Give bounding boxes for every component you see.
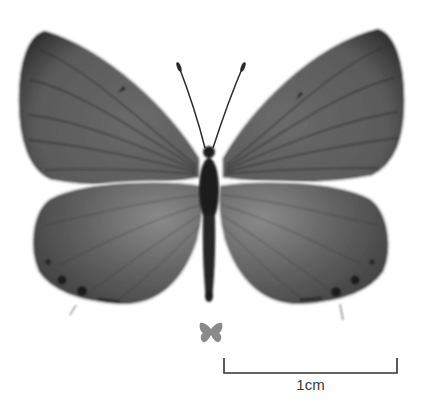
scale-label: 1cm bbox=[223, 376, 398, 393]
left-hindwing bbox=[32, 182, 204, 315]
left-forewing bbox=[18, 30, 200, 186]
scale-bar bbox=[223, 358, 398, 374]
right-hindwing bbox=[218, 182, 389, 320]
right-forewing bbox=[222, 28, 405, 183]
antennae bbox=[178, 64, 244, 148]
butterfly-specimen bbox=[0, 0, 439, 407]
butterfly-silhouette-icon bbox=[198, 321, 224, 345]
